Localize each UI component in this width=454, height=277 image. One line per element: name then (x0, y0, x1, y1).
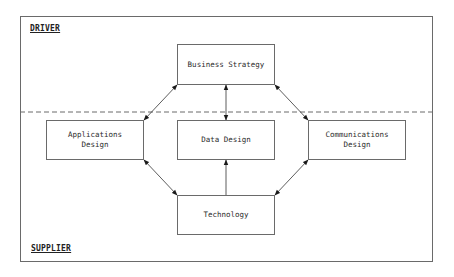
supplier-zone-label: SUPPLIER (31, 244, 71, 253)
node-applications-design: Applications Design (46, 120, 144, 160)
driver-zone-label: DRIVER (30, 24, 60, 33)
node-business-strategy: Business Strategy (177, 44, 275, 85)
node-communications-design: Communications Design (308, 120, 406, 160)
node-technology: Technology (177, 195, 275, 235)
node-data-design: Data Design (177, 120, 275, 160)
